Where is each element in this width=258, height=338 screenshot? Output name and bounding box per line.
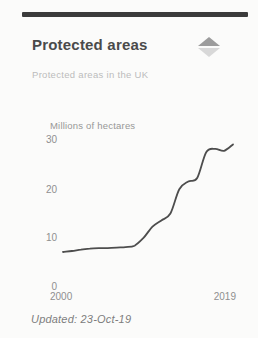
x-tick-label-end: 2019 <box>170 291 236 302</box>
y-tick-label: 20 <box>17 184 57 195</box>
y-tick-label: 10 <box>17 232 57 243</box>
line-chart-svg <box>60 134 238 294</box>
card-accent-bar <box>22 12 248 17</box>
up-triangle-icon <box>198 37 220 46</box>
trend-sort-icon[interactable] <box>198 37 220 58</box>
updated-text: Updated: 23-Oct-19 <box>31 313 131 325</box>
x-tick-label-start: 2000 <box>50 291 72 302</box>
trend-line <box>63 144 233 252</box>
card-subtitle: Protected areas in the UK <box>32 69 148 80</box>
y-axis-title: Millions of hectares <box>50 120 135 131</box>
y-tick-label: 30 <box>17 134 57 145</box>
down-triangle-icon <box>198 48 220 57</box>
card-title: Protected areas <box>32 36 148 53</box>
indicator-card: Protected areas Protected areas in the U… <box>0 0 258 338</box>
